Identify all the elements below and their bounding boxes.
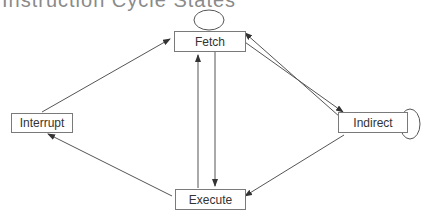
node-fetch-label: Fetch bbox=[195, 35, 225, 49]
edge-indirect-to-fetch bbox=[245, 33, 340, 117]
edge-fetch-to-indirect bbox=[242, 40, 343, 112]
node-indirect-label: Indirect bbox=[353, 116, 392, 130]
node-fetch[interactable]: Fetch bbox=[174, 31, 246, 52]
node-indirect[interactable]: Indirect bbox=[338, 112, 408, 133]
node-execute-label: Execute bbox=[189, 193, 232, 207]
fetch-self-loop bbox=[194, 10, 224, 30]
node-interrupt-label: Interrupt bbox=[20, 116, 65, 130]
node-execute[interactable]: Execute bbox=[175, 189, 246, 210]
edge-indirect-to-execute bbox=[245, 135, 344, 196]
edge-execute-to-interrupt bbox=[48, 134, 172, 196]
edge-interrupt-to-fetch bbox=[42, 39, 170, 112]
node-interrupt[interactable]: Interrupt bbox=[11, 113, 73, 133]
